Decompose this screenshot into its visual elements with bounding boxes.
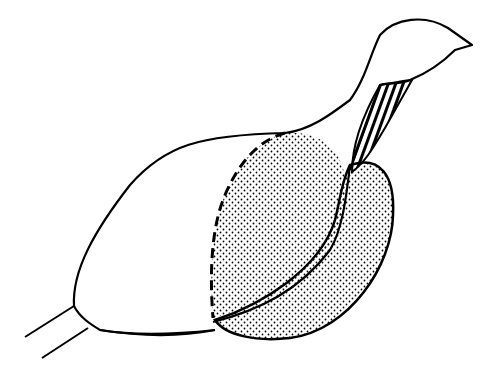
neck-stripe xyxy=(352,80,412,172)
bird-diagram xyxy=(0,0,499,380)
